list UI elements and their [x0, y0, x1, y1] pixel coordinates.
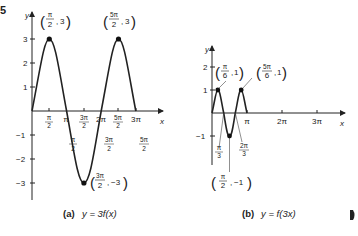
- svg-text:2: 2: [112, 20, 117, 29]
- graph-b-caption-eq: y = f(3x): [260, 208, 296, 219]
- graph-a-y-label: y: [24, 11, 30, 20]
- svg-text:): ): [123, 174, 128, 191]
- svg-text:2: 2: [82, 122, 86, 129]
- graph-b-y-label: y: [204, 45, 210, 54]
- graph-a: y x 3 2 1 −1 −2 −3 π 2 π 3π: [16, 11, 165, 219]
- svg-text:6: 6: [223, 71, 228, 80]
- graph-b-ytick: 2: [203, 63, 208, 72]
- svg-text:3: 3: [217, 152, 221, 159]
- graph-a-point-max1: [47, 36, 52, 41]
- svg-text:,: ,: [230, 178, 232, 187]
- svg-text:π: π: [221, 173, 226, 180]
- svg-text:2: 2: [98, 181, 103, 190]
- graph-a-point-min: [81, 180, 86, 185]
- graph-b-label-p2: ( 5π 6 , 1 ): [256, 63, 287, 81]
- graph-a-caption-eq: y = 3f(x): [81, 208, 117, 219]
- graph-a-xtick: 3π: [80, 114, 89, 121]
- svg-text:): ): [131, 13, 136, 30]
- graph-a-ytick: −1: [16, 131, 26, 140]
- graph-b-x-label: x: [339, 119, 345, 128]
- graph-b-ytick: −1: [196, 132, 206, 141]
- svg-text:(: (: [40, 13, 45, 30]
- svg-text:(: (: [256, 64, 261, 81]
- svg-text:(: (: [90, 174, 95, 191]
- svg-text:3: 3: [60, 17, 65, 26]
- svg-text:2: 2: [48, 20, 53, 29]
- graph-a-ytick: 2: [23, 59, 28, 68]
- graph-a-label-p1: ( π 2 , 3 ): [40, 11, 71, 30]
- svg-text:−1: −1: [234, 178, 244, 187]
- graph-a-point-max2: [116, 36, 121, 41]
- svg-text:(: (: [211, 174, 216, 191]
- svg-text:2: 2: [107, 145, 111, 152]
- graph-b-xlabel-below: 2π: [240, 142, 249, 149]
- graph-a-xtick: 2π: [96, 115, 106, 124]
- svg-text:π: π: [223, 63, 228, 70]
- svg-text:π: π: [48, 11, 53, 18]
- svg-text:2: 2: [221, 181, 226, 190]
- graph-b-point-max2: [239, 88, 244, 93]
- graph-a-ytick: 1: [23, 83, 28, 92]
- svg-text:6: 6: [265, 71, 270, 80]
- svg-text:,: ,: [107, 178, 109, 187]
- graph-a-ytick: −2: [16, 155, 26, 164]
- graph-a-xtick: 5π: [114, 114, 123, 121]
- svg-text:3: 3: [125, 17, 130, 26]
- graph-a-xlabel-below: 5π: [140, 136, 149, 143]
- graph-b-ytick: 1: [203, 86, 208, 95]
- svg-text:): ): [66, 13, 71, 30]
- svg-text:(: (: [103, 13, 108, 30]
- svg-text:5π: 5π: [263, 63, 272, 70]
- graph-a-xtick: π: [47, 114, 52, 121]
- graph-a-caption-letter: (a): [63, 208, 75, 219]
- svg-text:2: 2: [47, 122, 51, 129]
- svg-text:(: (: [215, 64, 220, 81]
- graph-a-ytick: −3: [16, 179, 26, 188]
- graph-a-ytick: 3: [23, 35, 28, 44]
- graph-b: y x 2 1 −1 π 2π 3π: [196, 45, 345, 219]
- svg-text:,: ,: [56, 17, 58, 26]
- svg-text:3π: 3π: [96, 172, 105, 179]
- graph-b-label-p3: ( π 2 , −1 ): [211, 173, 252, 191]
- svg-text:): ): [247, 174, 252, 191]
- figure-number: 5: [0, 4, 6, 16]
- graph-a-x-label: x: [159, 117, 165, 126]
- graph-b-xtick: 2π: [277, 117, 287, 126]
- svg-text:): ): [239, 64, 244, 81]
- graph-b-xtick: π: [244, 117, 250, 126]
- graph-b-point-max1: [215, 88, 220, 93]
- graph-b-point-min: [227, 134, 232, 139]
- svg-text:,: ,: [231, 68, 233, 77]
- svg-text:5π: 5π: [110, 11, 119, 18]
- graph-a-label-p2: ( 5π 2 , 3 ): [103, 11, 136, 30]
- graph-a-label-p3: ( 3π 2 , −3 ): [90, 172, 128, 191]
- svg-text:2: 2: [116, 122, 120, 129]
- svg-text:): ): [282, 64, 287, 81]
- graph-b-xtick: 3π: [312, 117, 322, 126]
- graph-a-xlabel-below: 3π: [105, 136, 114, 143]
- graph-b-xlabel-below: π: [217, 144, 222, 151]
- svg-text:,: ,: [274, 68, 276, 77]
- graph-b-caption-letter: (b): [242, 208, 254, 219]
- svg-text:,: ,: [121, 17, 123, 26]
- graph-a-xtick: 3π: [131, 115, 141, 124]
- graph-b-label-p1: ( π 6 , 1 ): [215, 63, 244, 81]
- figure: 5 y x 3 2 1 −1 −2 −3 π: [0, 0, 358, 236]
- svg-text:2: 2: [142, 145, 146, 152]
- svg-text:−3: −3: [111, 178, 121, 187]
- svg-text:3: 3: [242, 150, 246, 157]
- page-marker-icon: [350, 210, 355, 220]
